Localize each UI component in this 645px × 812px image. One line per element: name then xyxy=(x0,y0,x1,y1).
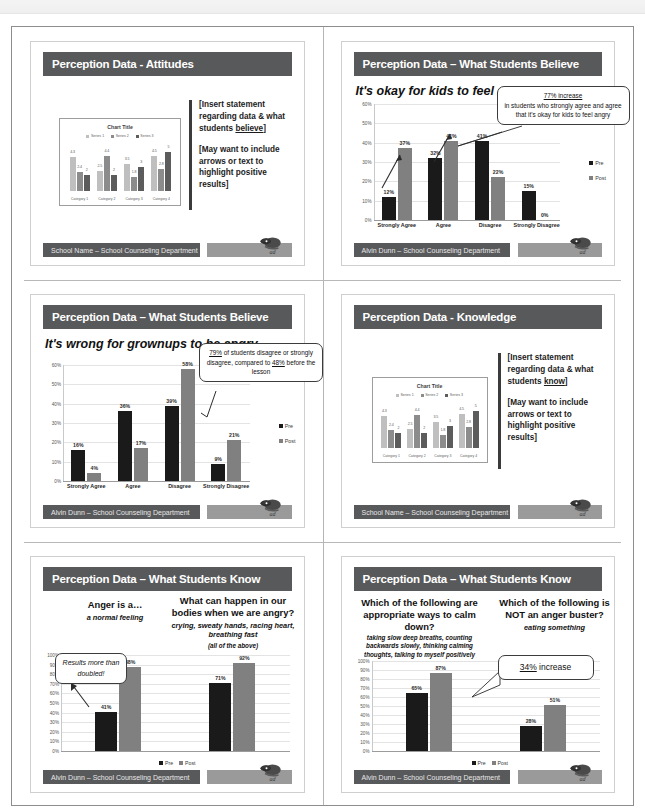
placeholder-bar-label: 4.3 xyxy=(70,150,75,154)
slide-4-note-underline: know xyxy=(544,377,565,386)
chart-bar-post: 51% xyxy=(544,705,566,751)
placeholder-bar: 4.3 xyxy=(381,416,387,448)
slide-2-title-bar: Perception Data – What Students Believe xyxy=(354,52,603,76)
placeholder-chart-1-plot: 4.32.422.54.423.51.834.52.85 xyxy=(66,147,175,191)
chart-x-tick-label: Disagree xyxy=(156,483,203,489)
chart-x-axis-labels: Strongly AgreeAgreeDisagreeStrongly Disa… xyxy=(374,222,561,228)
slide-6-answer-1-text: taking slow deep breaths, counting backw… xyxy=(354,634,486,659)
chart-y-tick-label: 60% xyxy=(41,691,59,696)
placeholder-bar: 4.5 xyxy=(151,156,157,191)
chart-y-tick-label: 50% xyxy=(354,121,372,126)
chart-data-label: 41% xyxy=(101,704,111,710)
slide-1[interactable]: Perception Data - Attitudes Chart Title … xyxy=(30,41,305,266)
placeholder-bar-label: 2 xyxy=(113,168,115,172)
legend-item-post: Post xyxy=(589,175,606,181)
chart-bar-post: 21% xyxy=(227,440,241,481)
chart-bar-post: 41% xyxy=(444,141,458,220)
slide-2-callout-lead: 77% increase xyxy=(544,92,583,99)
chart-y-tick-label: 30% xyxy=(43,421,61,426)
placeholder-bar-label: 4.5 xyxy=(152,149,157,153)
slide-5-answer-1-text: a normal feeling xyxy=(61,613,169,623)
chart-data-label: 92% xyxy=(239,655,249,661)
placeholder-category-label: Category 2 xyxy=(98,197,115,201)
placeholder-bar-label: 1.8 xyxy=(132,170,137,174)
chart-axis-line xyxy=(63,481,250,482)
placeholder-category-label: Category 4 xyxy=(460,454,477,458)
chart-data-label: 71% xyxy=(215,675,225,681)
slide-3-footer-bar: Alvin Dunn – School Counseling Departmen… xyxy=(43,505,200,519)
slide-5-answer-2-note: (all of the above) xyxy=(171,642,295,650)
placeholder-bar: 5 xyxy=(165,152,171,191)
slide-3-callout-text: 79% of students disagree or strongly dis… xyxy=(207,349,316,375)
chart-bar-pre: 36% xyxy=(118,411,132,481)
placeholder-bar-label: 4.5 xyxy=(459,407,464,411)
placeholder-bar-group: 4.52.85 xyxy=(151,147,171,191)
legend-item-post: Post xyxy=(279,438,296,444)
slide-3[interactable]: Perception Data – What Students Believe … xyxy=(30,294,305,528)
slide-3-title-bar: Perception Data – What Students Believe xyxy=(43,305,292,329)
slide-5[interactable]: Perception Data – What Students Know Ang… xyxy=(30,556,305,793)
chart-data-label: 0% xyxy=(541,212,549,218)
chart-y-tick-label: 20% xyxy=(352,731,370,736)
chart-data-label: 36% xyxy=(120,403,130,409)
slide-5-callout-text: Results more than doubled! xyxy=(63,659,120,677)
chart-data-label: 22% xyxy=(493,169,503,175)
chart-axis-line xyxy=(372,751,601,752)
slide-5-footer: Alvin Dunn – School Counseling Departmen… xyxy=(43,770,292,784)
chart-data-label: 58% xyxy=(182,361,192,367)
chart-y-tick-label: 0% xyxy=(41,749,59,754)
chart-data-label: 37% xyxy=(400,140,410,146)
slide-cell-3: Perception Data – What Students Believe … xyxy=(12,280,323,542)
chart-y-tick-label: 40% xyxy=(41,710,59,715)
svg-text:ad: ad xyxy=(580,511,587,517)
placeholder-bar-label: 2 xyxy=(423,426,425,430)
slide-1-footer-bar: School Name – School Counseling Departme… xyxy=(43,243,200,257)
placeholder-bar-group: 2.54.42 xyxy=(97,147,117,191)
placeholder-bar-label: 3 xyxy=(449,419,451,423)
legend-item-pre: Pre xyxy=(589,160,606,166)
placeholder-category-label: Category 3 xyxy=(434,454,451,458)
chart-y-tick-label: 30% xyxy=(354,160,372,165)
chart-bar-group: 65%87% xyxy=(372,661,486,751)
school-mascot-icon: ad xyxy=(566,234,596,256)
slide-1-footer: School Name – School Counseling Departme… xyxy=(43,243,292,257)
placeholder-bar: 3.5 xyxy=(433,422,439,448)
slide-2[interactable]: Perception Data – What Students Believe … xyxy=(341,41,616,266)
placeholder-bar: 2.4 xyxy=(388,430,394,448)
chart-y-tick-label: 0% xyxy=(354,218,372,223)
legend-item-series1: Series 1 xyxy=(396,393,414,397)
placeholder-bar-group: 2.54.42 xyxy=(407,406,427,448)
chart-data-label: 9% xyxy=(214,456,222,462)
chart-y-tick-label: 50% xyxy=(352,704,370,709)
placeholder-category-label: Category 3 xyxy=(126,197,143,201)
placeholder-category-label: Category 1 xyxy=(383,454,400,458)
chart-bar-group: 9%21% xyxy=(203,365,250,481)
chart-bar-pre: 71% xyxy=(209,683,231,751)
slide-6-footer: Alvin Dunn – School Counseling Departmen… xyxy=(354,770,603,784)
placeholder-bar-group: 4.32.42 xyxy=(70,147,90,191)
placeholder-bar-group: 4.32.42 xyxy=(381,406,401,448)
chart-y-tick-label: 20% xyxy=(354,179,372,184)
slide-2-footer-text: Alvin Dunn – School Counseling Departmen… xyxy=(354,247,501,254)
slide-6[interactable]: Perception Data – What Students Know Whi… xyxy=(341,556,616,793)
slide-6-title: Perception Data – What Students Know xyxy=(354,573,571,585)
chart-data-label: 87% xyxy=(435,665,445,671)
legend-item-pre: Pre xyxy=(159,760,173,766)
chart-bar-group: 16%4% xyxy=(63,365,110,481)
placeholder-bar: 1.8 xyxy=(131,177,137,191)
slide-6-question-1: Which of the following are appropriate w… xyxy=(354,597,486,659)
chart-bar-pre: 32% xyxy=(428,158,442,220)
slide-4[interactable]: Perception Data - Knowledge Chart Title … xyxy=(341,294,616,528)
chart-bar-post: 22% xyxy=(491,177,505,220)
scan-header-strip xyxy=(0,0,645,14)
chart-y-tick-label: 50% xyxy=(43,382,61,387)
legend-item-post: Post xyxy=(492,760,508,766)
placeholder-category-label: Category 2 xyxy=(409,454,426,458)
chart-bar-group: 32%41% xyxy=(420,104,467,220)
chart-data-label: 17% xyxy=(136,440,146,446)
placeholder-category-label: Category 4 xyxy=(153,197,170,201)
slide-grid: Perception Data - Attitudes Chart Title … xyxy=(12,27,633,805)
chart-y-tick-label: 40% xyxy=(43,401,61,406)
placeholder-bar: 2.5 xyxy=(407,429,413,448)
placeholder-bar: 4.4 xyxy=(414,415,420,448)
